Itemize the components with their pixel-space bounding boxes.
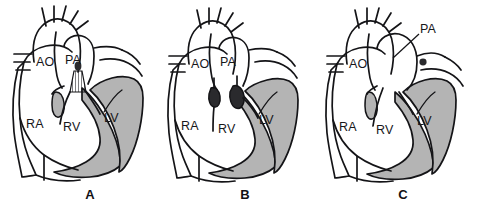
panel-c: AO PA RA RV LV C (315, 0, 477, 209)
label-pa: PA (65, 53, 82, 67)
pa-branch-lower (255, 61, 297, 78)
label-ao: AO (191, 57, 210, 71)
arch-branch-vessels (42, 6, 88, 30)
panel-letter-a: A (85, 187, 95, 202)
label-ao: AO (349, 57, 368, 71)
arch-branch-vessels (197, 8, 243, 32)
pa-branch-upper (445, 57, 461, 70)
label-lv: LV (104, 111, 119, 125)
label-ra: RA (339, 120, 357, 134)
label-pa: PA (220, 55, 237, 69)
label-ra: RA (26, 117, 44, 131)
label-pa: PA (420, 22, 437, 36)
aorta-inner-wall (368, 34, 376, 90)
pa-dilated-wall (417, 53, 445, 57)
panel-a: AO PA RA RV LV A (0, 0, 162, 209)
label-rv: RV (63, 120, 81, 134)
label-ao: AO (36, 55, 55, 69)
panel-letter-b: B (240, 187, 249, 202)
pa-valve-marker (419, 59, 426, 66)
panel-letter-c: C (398, 187, 408, 202)
pulmonary-valve-marker (230, 86, 244, 109)
pa-right-wall (94, 47, 122, 50)
figure-root: AO PA RA RV LV A (0, 0, 485, 209)
aortic-valve-marker (209, 87, 220, 107)
label-rv: RV (218, 122, 236, 136)
pa-right-wall (249, 49, 277, 52)
hatched-stenosis-wedge (70, 71, 86, 92)
label-lv: LV (259, 113, 274, 127)
aorta-inner-wall (55, 32, 63, 88)
label-lv: LV (417, 114, 432, 128)
label-ra: RA (181, 119, 199, 133)
arch-branch-vessels (355, 8, 401, 32)
pa-branch-lower (100, 59, 142, 76)
panel-b: AO PA RA RV LV B (155, 0, 317, 209)
label-rv: RV (376, 123, 394, 137)
